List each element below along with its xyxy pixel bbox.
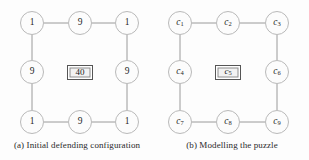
graph-node-n2[interactable]: c2 (216, 11, 240, 35)
center-value-box[interactable]: 40 (67, 65, 93, 80)
graph-node-n8[interactable]: c8 (216, 110, 240, 134)
graph-node-n7[interactable]: c7 (168, 110, 192, 134)
panel-a-initial-defending-configuration: 1919919140 (a) Initial defending configu… (0, 0, 154, 160)
graph-node-n3[interactable]: c3 (265, 11, 289, 35)
center-value-box[interactable]: c5 (215, 65, 241, 80)
panel-b-graph: c1c2c3c4c6c7c8c9c5 (155, 0, 309, 140)
graph-node-n6[interactable]: 9 (115, 60, 139, 84)
panel-a-graph: 1919919140 (0, 0, 154, 140)
graph-node-n6[interactable]: c6 (265, 60, 289, 84)
graph-node-n1[interactable]: 1 (20, 11, 44, 35)
graph-node-n9[interactable]: 1 (115, 110, 139, 134)
graph-node-n9[interactable]: c9 (265, 110, 289, 134)
graph-node-n8[interactable]: 9 (68, 110, 92, 134)
panel-b-modelling-the-puzzle: c1c2c3c4c6c7c8c9c5 (b) Modelling the puz… (155, 0, 309, 160)
panel-b-caption: (b) Modelling the puzzle (155, 139, 309, 151)
graph-node-n3[interactable]: 1 (115, 11, 139, 35)
panel-a-caption: (a) Initial defending configuration (0, 139, 154, 151)
graph-node-n7[interactable]: 1 (20, 110, 44, 134)
graph-node-n1[interactable]: c1 (168, 11, 192, 35)
graph-node-n4[interactable]: 9 (20, 60, 44, 84)
graph-node-n2[interactable]: 9 (68, 11, 92, 35)
graph-node-n4[interactable]: c4 (168, 60, 192, 84)
figure-root: 1919919140 (a) Initial defending configu… (0, 0, 309, 160)
